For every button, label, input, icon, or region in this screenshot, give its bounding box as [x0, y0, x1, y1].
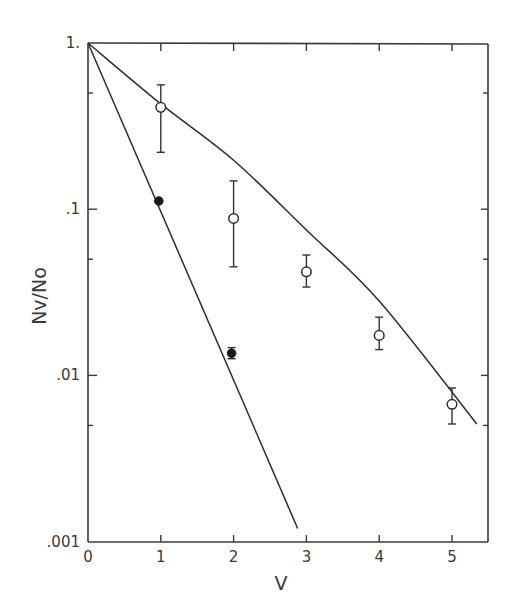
upper-curve: [88, 43, 477, 424]
chart: 0123451..1.01.001 V Nv/No: [0, 0, 518, 615]
data-points: [155, 103, 457, 410]
filled-circle-point: [155, 197, 164, 206]
plot-frame: [88, 43, 488, 542]
top-border: [88, 43, 488, 44]
open-circle-point: [156, 103, 166, 113]
open-circle-point: [374, 331, 384, 341]
y-tick-label: .1: [66, 200, 80, 218]
ticks: [88, 44, 488, 542]
steep-line: [88, 43, 298, 528]
open-circle-point: [229, 214, 239, 224]
x-tick-label: 1: [156, 548, 166, 566]
y-axis-title: Nv/No: [28, 267, 50, 325]
x-tick-label: 5: [447, 548, 457, 566]
y-tick-label: .001: [47, 533, 80, 551]
y-tick-label: .01: [56, 366, 80, 384]
filled-circle-point: [227, 349, 236, 358]
x-tick-label: 4: [374, 548, 384, 566]
open-circle-point: [447, 400, 457, 410]
x-axis-title: V: [275, 572, 288, 594]
x-tick-label: 2: [229, 548, 239, 566]
x-tick-label: 3: [302, 548, 312, 566]
fit-lines: [88, 43, 477, 528]
x-tick-label: 0: [83, 548, 93, 566]
open-circle-point: [302, 267, 312, 277]
y-tick-label: 1.: [66, 34, 80, 52]
tick-labels: 0123451..1.01.001: [47, 34, 457, 566]
